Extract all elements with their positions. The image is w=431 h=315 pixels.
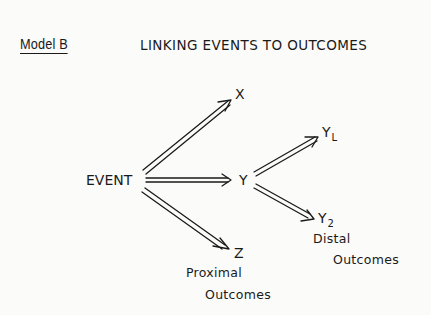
- arrow-y-to-yl: [254, 137, 318, 176]
- node-event: EVENT: [86, 172, 132, 188]
- node-x: X: [235, 86, 245, 102]
- arrow-event-to-y: [146, 174, 231, 186]
- node-y-2: Y2: [318, 210, 333, 226]
- node-y-l-subscript: L: [332, 132, 338, 143]
- node-y: Y: [239, 172, 248, 188]
- caption-distal: Distal: [313, 231, 350, 246]
- node-y-2-base: Y: [318, 210, 327, 226]
- caption-distal-outcomes: Outcomes: [333, 252, 399, 267]
- arrow-y-to-y2: [254, 184, 314, 221]
- node-y-2-subscript: 2: [328, 218, 334, 229]
- caption-proximal: Proximal: [186, 265, 242, 280]
- node-z: Z: [234, 245, 244, 261]
- node-y-l-base: Y: [322, 124, 331, 140]
- node-y-l: YL: [322, 124, 336, 140]
- arrow-event-to-x: [143, 100, 231, 174]
- caption-proximal-outcomes: Outcomes: [205, 287, 271, 302]
- arrow-event-to-z: [142, 188, 229, 249]
